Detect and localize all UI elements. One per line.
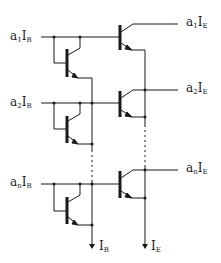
stage-row-1 <box>41 24 178 78</box>
output-label-row-1: a1IE <box>186 15 208 30</box>
input-label-row-1: a1IB <box>10 29 32 44</box>
output-label-row-2: a2IE <box>186 81 208 96</box>
stage-row-n <box>41 170 178 225</box>
ib-output-label: IB <box>99 239 109 254</box>
output-label-row-n: anIE <box>186 161 208 176</box>
input-label-row-2: a2IB <box>10 95 32 110</box>
circuit-diagram: a1IB a1IE a2IB a2IE anIB anIE IB IE <box>0 0 221 263</box>
input-label-row-n: anIB <box>10 175 32 190</box>
ie-output-label: IE <box>151 239 161 254</box>
stage-row-2 <box>41 90 178 144</box>
